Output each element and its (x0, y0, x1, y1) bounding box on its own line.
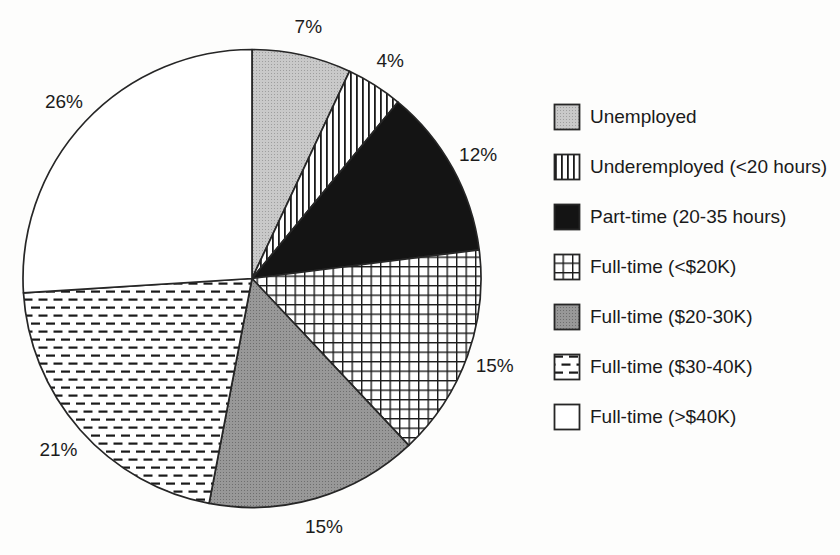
legend-label: Full-time ($20-30K) (590, 303, 753, 331)
legend-label: Full-time ($30-40K) (590, 353, 753, 381)
legend-swatch-rect-4 (555, 305, 580, 330)
legend-item-full-time-30-40k: Full-time ($30-40K) (553, 353, 827, 381)
legend-label: Part-time (20-35 hours) (590, 203, 786, 231)
legend-swatch-part-time (553, 203, 581, 231)
pie-slice-percent-label-5: 21% (39, 439, 77, 460)
chart-legend: Unemployed Underemployed (<20 hours) Par… (553, 103, 827, 431)
legend-swatch-rect-3 (555, 255, 580, 280)
legend-swatch-full-time-20-30k (553, 303, 581, 331)
legend-swatch-rect-0 (555, 105, 580, 130)
legend-swatch-unemployed (553, 103, 581, 131)
pie-slice-percent-label-0: 7% (295, 16, 323, 37)
pie-slices-group (23, 49, 481, 507)
legend-swatch-rect-5 (555, 355, 580, 380)
legend-swatch-full-time-under-20k (553, 253, 581, 281)
legend-swatch-full-time-over-40k (553, 403, 581, 431)
legend-item-unemployed: Unemployed (553, 103, 827, 131)
pie-slice-percent-label-4: 15% (305, 516, 343, 537)
legend-label: Underemployed (<20 hours) (590, 153, 827, 181)
legend-label: Full-time (>$40K) (590, 403, 736, 431)
pie-slice-percent-label-1: 4% (376, 50, 404, 71)
legend-item-full-time-under-20k: Full-time (<$20K) (553, 253, 827, 281)
pie-chart: 7%4%12%15%15%21%26% (0, 0, 548, 555)
pie-slice-6 (23, 50, 252, 293)
legend-item-part-time: Part-time (20-35 hours) (553, 203, 827, 231)
legend-label: Full-time (<$20K) (590, 253, 736, 281)
pie-slice-percent-label-2: 12% (459, 144, 497, 165)
legend-swatch-rect-6 (555, 405, 580, 430)
pie-chart-figure: 7%4%12%15%15%21%26% Unemployed Underempl… (0, 0, 840, 555)
legend-swatch-full-time-30-40k (553, 353, 581, 381)
legend-item-full-time-over-40k: Full-time (>$40K) (553, 403, 827, 431)
pie-slice-percent-label-3: 15% (476, 355, 514, 376)
legend-item-underemployed: Underemployed (<20 hours) (553, 153, 827, 181)
pie-slice-percent-label-6: 26% (45, 91, 83, 112)
legend-item-full-time-20-30k: Full-time ($20-30K) (553, 303, 827, 331)
legend-swatch-underemployed (553, 153, 581, 181)
legend-swatch-rect-1 (555, 155, 580, 180)
legend-swatch-rect-2 (555, 205, 580, 230)
legend-label: Unemployed (590, 103, 697, 131)
